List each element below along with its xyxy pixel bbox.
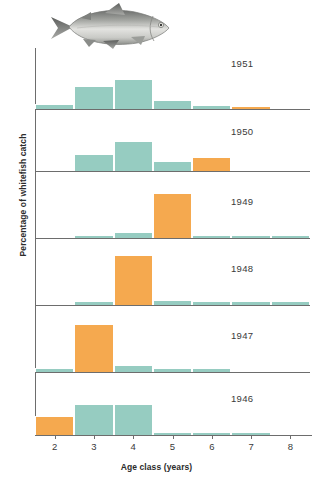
x-tick-label: 4 <box>123 441 143 452</box>
x-tick-label: 3 <box>84 441 104 452</box>
bar-1946-age-4 <box>114 404 153 435</box>
panel-year-label: 1951 <box>231 58 253 69</box>
x-tick-label: 6 <box>202 441 222 452</box>
bar-1950-age-4 <box>114 141 153 171</box>
x-tick <box>251 435 252 439</box>
panel-1951: 1951 <box>35 48 310 110</box>
panel-year-label: 1946 <box>231 393 253 404</box>
x-tick <box>94 435 95 439</box>
x-tick <box>212 435 213 439</box>
bars-1951 <box>35 47 310 109</box>
panel-year-label: 1949 <box>231 196 253 207</box>
x-axis-label: Age class (years) <box>0 462 313 472</box>
bar-1946-age-2 <box>35 416 74 435</box>
x-tick <box>290 435 291 439</box>
whitefish-age-class-figure: Percentage of whitefish catch 1951 1950 … <box>0 0 313 484</box>
bar-1951-age-3 <box>74 86 113 109</box>
x-tick-label: 5 <box>163 441 183 452</box>
panel-1949: 1949 <box>35 172 310 239</box>
x-tick <box>133 435 134 439</box>
bars-1946 <box>35 372 310 435</box>
panel-1950: 1950 <box>35 110 310 172</box>
bar-1946-age-3 <box>74 404 113 435</box>
x-tick-label: 8 <box>280 441 300 452</box>
bar-1947-age-4 <box>114 365 153 372</box>
bar-1950-age-3 <box>74 154 113 171</box>
bars-1950 <box>35 109 310 171</box>
x-tick <box>173 435 174 439</box>
panel-1946: 1946 <box>35 373 310 436</box>
x-tick-label: 7 <box>241 441 261 452</box>
panel-year-label: 1948 <box>231 263 253 274</box>
x-axis-line <box>35 435 312 436</box>
bar-1950-age-6 <box>192 157 231 171</box>
bar-1951-age-5 <box>153 100 192 109</box>
bar-1947-age-3 <box>74 324 113 372</box>
bars-1947 <box>35 305 310 372</box>
panel-year-label: 1950 <box>231 126 253 137</box>
bar-1948-age-4 <box>114 255 153 305</box>
bars-1949 <box>35 171 310 238</box>
plot-area: 1951 1950 1949 1948 1947 1946 <box>35 48 310 436</box>
panel-year-label: 1947 <box>231 330 253 341</box>
bar-1950-age-5 <box>153 161 192 171</box>
panel-1947: 1947 <box>35 306 310 373</box>
bar-1949-age-5 <box>153 193 192 238</box>
whitefish-illustration <box>47 1 175 51</box>
panel-1948: 1948 <box>35 239 310 306</box>
y-axis-label: Percentage of whitefish catch <box>18 100 28 290</box>
x-tick <box>55 435 56 439</box>
bars-1948 <box>35 238 310 305</box>
bar-1951-age-4 <box>114 79 153 109</box>
x-tick-label: 2 <box>45 441 65 452</box>
